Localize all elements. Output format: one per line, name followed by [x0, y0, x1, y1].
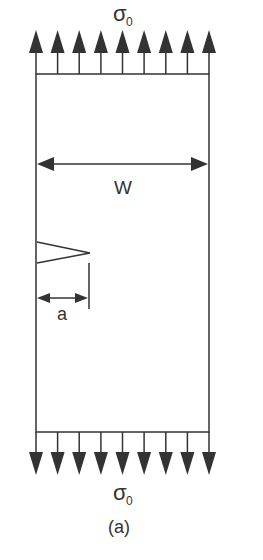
- top-tension-arrows: [29, 30, 216, 74]
- bottom-stress-label: σ: [113, 480, 127, 505]
- arrow-up-icon: [51, 30, 65, 74]
- arrow-down-icon: [94, 432, 108, 475]
- bottom-stress-subscript: 0: [126, 494, 133, 508]
- arrow-up-icon: [180, 30, 194, 74]
- arrow-down-icon: [137, 432, 151, 475]
- arrow-right-icon: [191, 157, 208, 171]
- arrow-down-icon: [159, 432, 173, 475]
- arrow-left-icon: [37, 157, 54, 171]
- width-label: W: [114, 177, 132, 198]
- arrow-up-icon: [159, 30, 173, 74]
- crack-length-dimension: [37, 263, 89, 309]
- specimen-diagram: σ 0 W a σ 0 (a): [0, 0, 263, 560]
- width-dimension: [37, 157, 208, 171]
- arrow-up-icon: [202, 30, 216, 74]
- arrow-down-icon: [202, 432, 216, 475]
- arrow-down-icon: [180, 432, 194, 475]
- figure-caption: (a): [108, 517, 130, 537]
- crack-length-label: a: [57, 304, 68, 324]
- arrow-down-icon: [29, 432, 43, 475]
- arrow-down-icon: [51, 432, 65, 475]
- top-stress-subscript: 0: [126, 15, 133, 29]
- edge-crack: [37, 242, 90, 263]
- arrow-up-icon: [72, 30, 86, 74]
- arrow-up-icon: [116, 30, 130, 74]
- specimen-plate: [36, 74, 209, 432]
- arrow-up-icon: [94, 30, 108, 74]
- arrow-up-icon: [29, 30, 43, 74]
- bottom-tension-arrows: [29, 432, 216, 475]
- arrow-up-icon: [137, 30, 151, 74]
- arrow-left-icon: [37, 293, 50, 303]
- arrow-right-icon: [75, 293, 88, 303]
- top-stress-label: σ: [113, 1, 127, 26]
- arrow-down-icon: [116, 432, 130, 475]
- arrow-down-icon: [72, 432, 86, 475]
